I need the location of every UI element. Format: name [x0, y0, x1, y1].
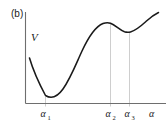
x-axis-label: α	[149, 108, 155, 119]
figure-panel-b: (b) V α 1 α 2 α 3 α	[0, 0, 168, 123]
x-tick-alpha1-base: α	[41, 108, 47, 119]
x-tick-alpha1: α 1	[41, 108, 51, 121]
curve-potential-energy	[30, 13, 159, 98]
x-tick-alpha3-base: α	[125, 108, 131, 119]
x-tick-alpha2-subscript: 2	[113, 114, 116, 121]
x-tick-alpha2-base: α	[106, 108, 112, 119]
x-tick-alpha1-subscript: 1	[48, 114, 51, 121]
panel-label: (b)	[11, 8, 23, 19]
potential-energy-plot: (b) V α 1 α 2 α 3 α	[0, 0, 168, 123]
x-tick-alpha3-subscript: 3	[132, 114, 135, 121]
x-tick-alpha3: α 3	[125, 108, 135, 121]
x-tick-alpha2: α 2	[106, 108, 116, 121]
y-axis-label: V	[31, 31, 39, 43]
